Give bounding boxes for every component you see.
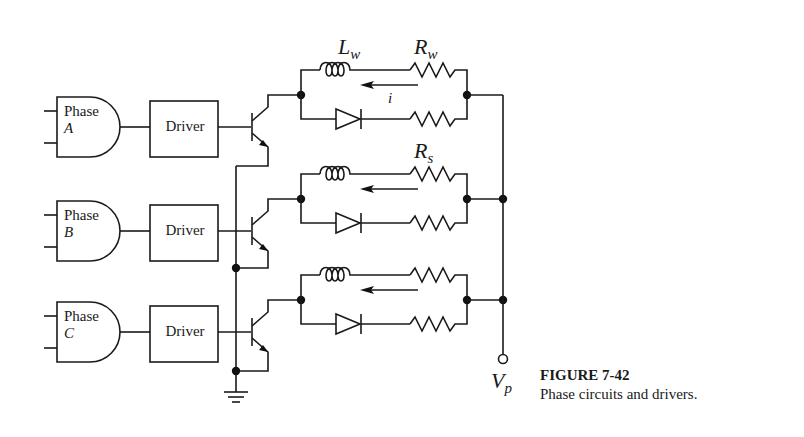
gate-b-label: Phase B bbox=[64, 207, 99, 241]
lw-label: Lw bbox=[338, 34, 360, 63]
phase-row-b bbox=[44, 167, 507, 269]
driver-c-label: Driver bbox=[156, 323, 214, 340]
supply-terminal bbox=[499, 355, 508, 364]
vp-label: Vp bbox=[491, 368, 512, 397]
driver-b-label: Driver bbox=[156, 222, 214, 239]
rs-label: Rs bbox=[414, 138, 433, 167]
phase-row-c bbox=[44, 268, 507, 372]
rw-label: Rw bbox=[414, 34, 437, 63]
figure-caption: Phase circuits and drivers. bbox=[540, 386, 697, 403]
circuit-diagram bbox=[0, 0, 804, 437]
phase-row-a bbox=[44, 63, 503, 167]
figure-number: FIGURE 7-42 bbox=[540, 367, 630, 384]
current-label: i bbox=[388, 90, 392, 107]
driver-a-label: Driver bbox=[156, 118, 214, 135]
gate-a-label: Phase A bbox=[64, 103, 99, 137]
ground-icon bbox=[224, 392, 248, 402]
gate-c-label: Phase C bbox=[64, 308, 99, 342]
